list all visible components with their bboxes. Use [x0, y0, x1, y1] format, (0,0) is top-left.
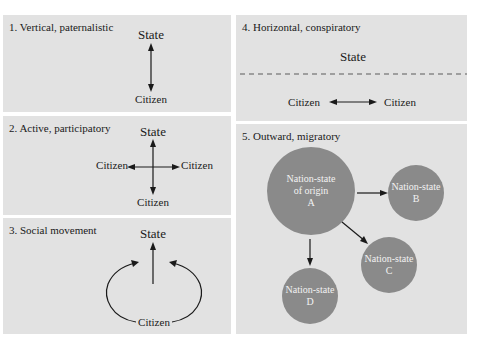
panel-outward-migratory: 5. Outward, migratory Nation-state of or… [236, 124, 467, 334]
node-a-label: Nation-state of origin A [287, 173, 336, 209]
node-c-label: Nation-state C [365, 253, 414, 277]
panel-social-movement: 3. Social movement State Citizen [3, 218, 231, 334]
node-d-label: Nation-state D [286, 284, 335, 308]
panel-active-participatory: 2. Active, participatory State Citizen C… [3, 116, 231, 215]
node-b-label: Nation-state B [392, 181, 441, 205]
social-movement-arrows-icon [3, 218, 231, 334]
panel-horizontal-conspiratory: 4. Horizontal, conspiratory State Citize… [236, 15, 467, 121]
horizontal-arrow-and-divider [236, 15, 467, 121]
panel-vertical-paternalistic: 1. Vertical, paternalistic State Citizen [3, 15, 231, 112]
four-way-arrow-icon [3, 116, 231, 215]
bidirectional-vertical-arrow-icon [3, 15, 231, 112]
migration-network [236, 124, 467, 334]
